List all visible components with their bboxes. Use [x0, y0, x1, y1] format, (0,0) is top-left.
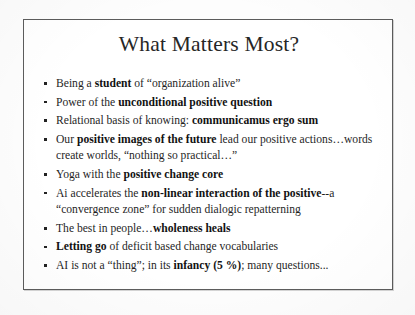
bullet-positive-change-core: Yoga with the positive change core	[42, 167, 386, 184]
bullet-positive-images-of-the-future: Our positive images of the future lead o…	[42, 132, 386, 165]
bullet-student: Being a student of “organization alive”	[42, 76, 386, 93]
bullet-point-icon	[44, 173, 47, 176]
bullet-text: Ai accelerates the non-linear interactio…	[56, 186, 386, 219]
bullet-text: Our positive images of the future lead o…	[56, 132, 386, 165]
bullet-point-icon	[44, 227, 47, 230]
slide-canvas: What Matters Most? Being a student of “o…	[0, 0, 415, 315]
bullet-communicamus-ergo-sum: Relational basis of knowing: communicamu…	[42, 113, 386, 130]
bullet-point-icon	[44, 192, 47, 195]
bullet-text: Yoga with the positive change core	[56, 167, 386, 184]
slide-title: What Matters Most?	[24, 33, 394, 57]
bullet-list: Being a student of “organization alive”P…	[42, 76, 386, 277]
bullet-text: Being a student of “organization alive”	[56, 76, 386, 93]
bullet-text: Letting go of deficit based change vocab…	[56, 239, 386, 256]
bullet-point-icon	[44, 138, 47, 141]
bullet-point-icon	[44, 119, 47, 122]
bullet-letting-go: Letting go of deficit based change vocab…	[42, 239, 386, 256]
slide-frame: What Matters Most? Being a student of “o…	[23, 19, 393, 290]
bullet-unconditional-positive-question: Power of the unconditional positive ques…	[42, 95, 386, 112]
bullet-text: Relational basis of knowing: communicamu…	[56, 113, 386, 130]
bullet-text: The best in people…wholeness heals	[56, 221, 386, 238]
bullet-text: AI is not a “thing”; in its infancy (5 %…	[56, 258, 386, 275]
bullet-point-icon	[44, 82, 47, 85]
bullet-wholeness-heals: The best in people…wholeness heals	[42, 221, 386, 238]
bullet-ai-infancy: AI is not a “thing”; in its infancy (5 %…	[42, 258, 386, 275]
bullet-point-icon	[44, 246, 47, 249]
bullet-text: Power of the unconditional positive ques…	[56, 95, 386, 112]
bullet-point-icon	[44, 101, 47, 104]
bullet-non-linear-interaction: Ai accelerates the non-linear interactio…	[42, 186, 386, 219]
bullet-point-icon	[44, 264, 47, 267]
